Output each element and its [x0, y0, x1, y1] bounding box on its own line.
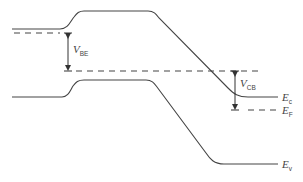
- ev-label: Ev: [281, 158, 293, 172]
- conduction-band-edge: [12, 11, 278, 97]
- vbe-label: VBE: [73, 43, 89, 57]
- vcb-arrow: [231, 71, 239, 110]
- valence-band-edge: [12, 80, 278, 164]
- ec-label: Ec: [281, 91, 293, 105]
- band-diagram: VBE VCB Ec EF Ev: [0, 0, 303, 182]
- ef-label: EF: [281, 104, 293, 118]
- vbe-arrow: [64, 33, 72, 71]
- vcb-label: VCB: [240, 77, 256, 91]
